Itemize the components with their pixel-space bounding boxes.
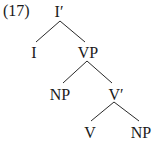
node-v-bar: V′ <box>108 86 123 103</box>
edge-ibar-vp <box>60 21 85 42</box>
edge-vp-np <box>63 61 87 83</box>
node-i: I <box>31 44 36 61</box>
example-number: (17) <box>3 2 30 20</box>
node-np-subject: NP <box>50 86 71 103</box>
edge-vbar-v <box>91 102 114 121</box>
edge-vp-vbar <box>87 61 112 83</box>
syntax-tree: (17) I′ I VP NP V′ V NP <box>0 0 156 141</box>
edge-vbar-np <box>114 102 139 121</box>
node-v: V <box>84 124 96 141</box>
node-np-object: NP <box>131 124 152 141</box>
edge-ibar-i <box>36 21 60 42</box>
node-vp: VP <box>78 44 99 61</box>
node-i-bar: I′ <box>55 3 64 20</box>
